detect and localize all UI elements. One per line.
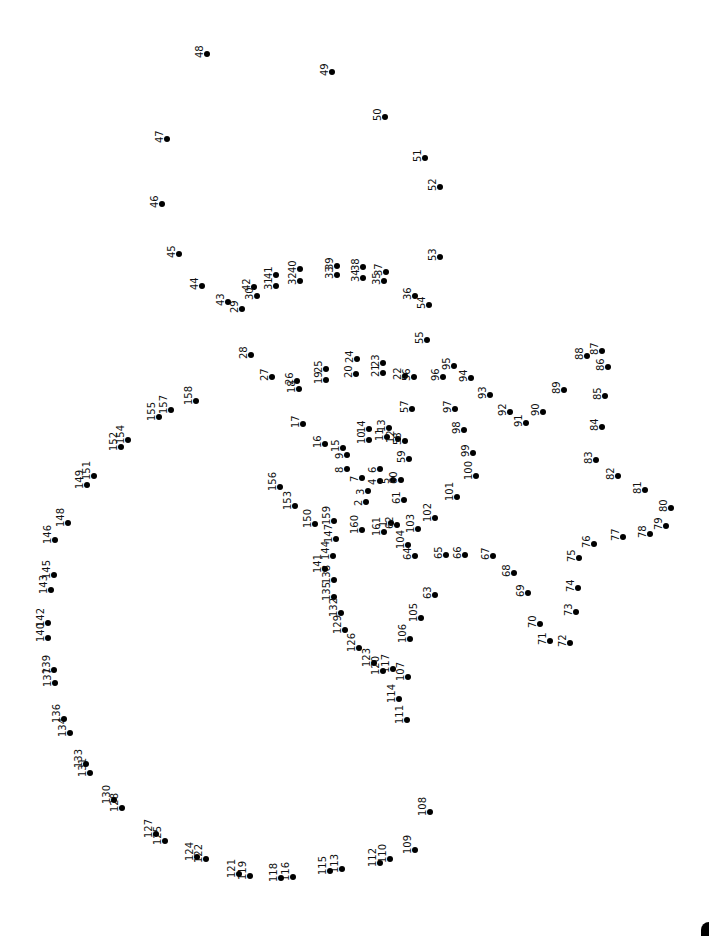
dot-number-label: 67 (481, 547, 491, 560)
dot-number-label: 155 (147, 402, 157, 421)
dot-number-label: 36 (403, 287, 413, 300)
dot-number-label: 23 (371, 354, 381, 367)
dot-number-label: 126 (347, 633, 357, 652)
dot-number-label: 49 (320, 63, 330, 76)
dot-number-label: 92 (498, 403, 508, 416)
dot-number-label: 75 (567, 549, 577, 562)
dot-number-label: 44 (190, 277, 200, 290)
dot-number-label: 102 (423, 503, 433, 522)
dot-number-label: 160 (350, 515, 360, 534)
dot-number-label: 50 (373, 108, 383, 121)
dot-number-label: 123 (362, 648, 372, 667)
dot-number-label: 73 (564, 603, 574, 616)
dot-number-label: 51 (413, 149, 423, 162)
dot-number-label: 89 (552, 381, 562, 394)
dot-number-label: 86 (596, 358, 606, 371)
dot-number-label: 88 (575, 347, 585, 360)
dot-number-label: 104 (396, 530, 406, 549)
dot-number-label: 115 (318, 856, 328, 875)
dot-number-label: 82 (606, 467, 616, 480)
dot-number-label: 39 (325, 257, 335, 270)
dot-number-label: 154 (116, 425, 126, 444)
dot-number-label: 85 (593, 387, 603, 400)
dot-number-label: 29 (230, 300, 240, 313)
dot-number-label: 42 (242, 278, 252, 291)
dot-number-label: 25 (314, 360, 324, 373)
dot-number-label: 47 (155, 130, 165, 143)
dot-number-label: 71 (538, 632, 548, 645)
dot-number-label: 54 (417, 296, 427, 309)
dot-number-label: 80 (659, 499, 669, 512)
dot-number-label: 133 (74, 749, 84, 768)
dot-number-label: 157 (159, 395, 169, 414)
dot-number-label: 142 (36, 608, 46, 627)
dot-number-label: 6 (368, 467, 378, 473)
dot-number-label: 101 (445, 482, 455, 501)
dot-number-label: 70 (528, 615, 538, 628)
dot-number-label: 37 (374, 263, 384, 276)
dot-number-label: 145 (42, 560, 52, 579)
dot-number-label: 130 (102, 785, 112, 804)
dot-number-label: 43 (216, 293, 226, 306)
dot-number-label: 7 (350, 476, 360, 482)
dot-number-label: 14 (357, 420, 367, 433)
dot-number-label: 72 (558, 634, 568, 647)
dot-number-label: 53 (428, 248, 438, 261)
dot-number-label: 158 (184, 386, 194, 405)
dot-number-label: 46 (150, 195, 160, 208)
dot-number-label: 27 (260, 368, 270, 381)
dot-number-label: 159 (322, 506, 332, 525)
dot-number-label: 52 (428, 178, 438, 191)
dot-number-label: 9 (335, 453, 345, 459)
dot-number-label: 8 (335, 467, 345, 473)
dot-number-label: 40 (288, 260, 298, 273)
dot-number-label: 68 (502, 564, 512, 577)
dot-number-label: 161 (372, 517, 382, 536)
dot-number-label: 147 (324, 524, 334, 543)
dot-number-label: 107 (396, 662, 406, 681)
dot-number-label: 105 (409, 603, 419, 622)
dot-number-label: 41 (264, 266, 274, 279)
dot-number-label: 65 (434, 546, 444, 559)
dot-number-label: 48 (195, 45, 205, 58)
dot-number-label: 81 (633, 481, 643, 494)
dot-number-label: 135 (322, 582, 332, 601)
dot-puzzle-canvas: 1234567891011121314151617181920212223242… (0, 0, 709, 936)
dot-number-label: 146 (43, 525, 53, 544)
dot-number-label: 60 (389, 471, 399, 484)
dot-number-label: 95 (442, 357, 452, 370)
dot-number-label: 79 (654, 517, 664, 530)
dot-number-label: 90 (531, 403, 541, 416)
dot-number-label: 3 (356, 489, 366, 495)
dot-number-label: 99 (461, 444, 471, 457)
dot-number-label: 59 (397, 450, 407, 463)
dot-number-label: 45 (167, 245, 177, 258)
dot-number-label: 150 (303, 509, 313, 528)
dot-number-label: 10 (357, 431, 367, 444)
dot-number-label: 20 (344, 365, 354, 378)
dot-number-label: 83 (584, 451, 594, 464)
dot-number-label: 61 (392, 491, 402, 504)
dot-number-label: 78 (638, 525, 648, 538)
dot-number-label: 32 (288, 272, 298, 285)
dot-number-label: 136 (52, 704, 62, 723)
dot-number-label: 31 (264, 277, 274, 290)
dot-number-label: 106 (398, 624, 408, 643)
dot-number-label: 91 (514, 414, 524, 427)
dot-number-label: 58 (393, 432, 403, 445)
dot-number-label: 129 (333, 615, 343, 634)
dot-number-label: 94 (459, 369, 469, 382)
dot-number-label: 15 (331, 439, 341, 452)
dot-number-label: 118 (269, 863, 279, 882)
dot-number-label: 84 (590, 418, 600, 431)
dot-number-label: 64 (403, 547, 413, 560)
dot-number-label: 103 (406, 514, 416, 533)
dot-number-label: 98 (452, 421, 462, 434)
dot-number-label: 77 (611, 528, 621, 541)
dot-number-label: 28 (239, 346, 249, 359)
dot-number-label: 87 (590, 342, 600, 355)
dot-number-label: 100 (464, 461, 474, 480)
dot-number-label: 153 (283, 491, 293, 510)
dot-number-label: 121 (227, 859, 237, 878)
dot-number-label: 16 (313, 435, 323, 448)
